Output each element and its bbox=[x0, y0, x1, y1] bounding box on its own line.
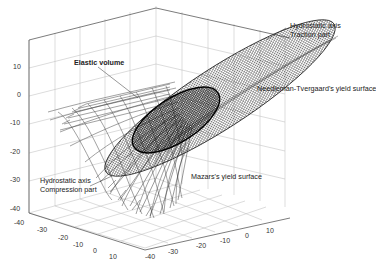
x-tick-0: 0 bbox=[93, 247, 97, 254]
y-tick-neg40: -40 bbox=[145, 253, 155, 260]
z-tick-neg40: -40 bbox=[10, 205, 20, 212]
label-elastic-volume: Elastic volume bbox=[74, 59, 124, 68]
y-tick-neg30: -30 bbox=[168, 248, 178, 255]
label-traction-line2: Traction part bbox=[290, 31, 341, 40]
label-hydrostatic-compression: Hydrostatic axis Compression part bbox=[40, 177, 97, 194]
x-tick-neg40: -40 bbox=[14, 219, 24, 226]
y-tick-0: 0 bbox=[245, 232, 249, 239]
label-hydrostatic-traction: Hydrostatic axis Traction part bbox=[290, 22, 341, 39]
z-tick-neg10: -10 bbox=[10, 119, 20, 126]
x-tick-neg30: -30 bbox=[37, 226, 47, 233]
label-mazars: Mazars's yield surface bbox=[191, 173, 262, 182]
x-tick-10: 10 bbox=[109, 253, 117, 260]
x-tick-neg20: -20 bbox=[58, 234, 68, 241]
z-tick-neg30: -30 bbox=[10, 176, 20, 183]
z-tick-0: 0 bbox=[17, 91, 21, 98]
y-tick-neg20: -20 bbox=[196, 242, 206, 249]
z-tick-10: 10 bbox=[13, 63, 21, 70]
z-tick-neg20: -20 bbox=[10, 148, 20, 155]
x-tick-neg10: -10 bbox=[73, 241, 83, 248]
y-tick-neg10: -10 bbox=[220, 237, 230, 244]
y-tick-10: 10 bbox=[266, 227, 274, 234]
label-needleman-tvergaard: Needleman-Tvergaard's yield surface bbox=[257, 85, 376, 94]
label-compression-line2: Compression part bbox=[40, 186, 97, 195]
